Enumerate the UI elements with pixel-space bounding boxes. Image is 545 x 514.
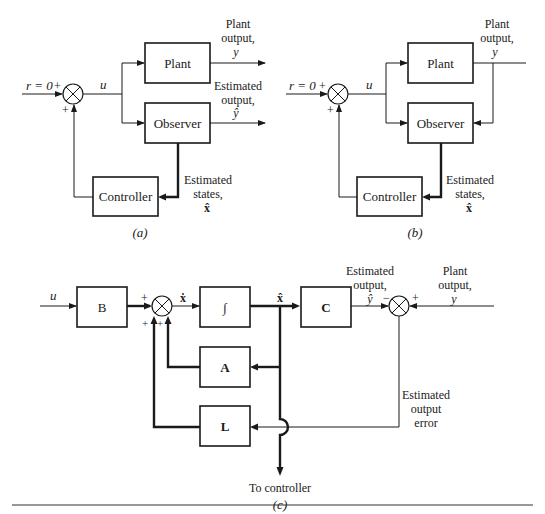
estimated-output-symbol: ŷ bbox=[232, 106, 239, 120]
a-label: A bbox=[220, 360, 230, 375]
a-feedback-line bbox=[168, 322, 200, 367]
sum-plus-bottom: + bbox=[327, 103, 334, 117]
estimated-states-label: Estimated bbox=[446, 173, 494, 187]
panel-a: r = 0 + + u Plant Observer Plant output,… bbox=[22, 17, 265, 240]
estimated-states-label-2: states, bbox=[193, 187, 223, 201]
summing-junction bbox=[63, 84, 83, 104]
estimated-states-symbol: x̂ bbox=[204, 201, 210, 215]
error-summing-junction bbox=[389, 296, 409, 316]
sum2-plus: + bbox=[412, 291, 419, 305]
summing-junction bbox=[328, 84, 348, 104]
sum1-plus-bottom-l: + bbox=[142, 317, 148, 329]
estimated-states-label: Estimated bbox=[184, 173, 232, 187]
b-label: B bbox=[98, 300, 107, 315]
plant-output-to-observer bbox=[474, 63, 493, 123]
c-label: C bbox=[321, 300, 330, 315]
estimated-states-symbol: x̂ bbox=[466, 201, 472, 215]
panel-c: u B + + + ẋ ∫ x̂ To controller A bbox=[40, 264, 494, 512]
caption-b: (b) bbox=[407, 225, 422, 240]
reference-input-label: r = 0 bbox=[289, 78, 316, 93]
observer-block-diagrams: r = 0 + + u Plant Observer Plant output,… bbox=[0, 0, 545, 514]
l-feedback-line bbox=[154, 322, 200, 427]
output-error-label-3: error bbox=[414, 416, 437, 430]
plant-output-label-2: output, bbox=[480, 31, 514, 45]
estimated-states-label-2: states, bbox=[455, 187, 485, 201]
controller-label: Controller bbox=[363, 189, 417, 204]
output-error-label-2: output bbox=[411, 402, 442, 416]
xhat-to-controller-line bbox=[280, 306, 288, 468]
feedback-line bbox=[339, 105, 357, 197]
feedback-line bbox=[74, 105, 93, 197]
estimated-output-label-2: output, bbox=[221, 93, 255, 107]
estimated-output-label-2: output, bbox=[353, 278, 387, 292]
to-controller-label: To controller bbox=[249, 481, 311, 495]
plant-output-symbol: y bbox=[232, 45, 239, 59]
output-error-line bbox=[256, 316, 399, 427]
state-summing-junction bbox=[152, 296, 172, 316]
estimated-output-label: Estimated bbox=[214, 79, 262, 93]
plant-output-label-2: output, bbox=[221, 31, 255, 45]
xhat-label: x̂ bbox=[277, 291, 283, 305]
plant-output-symbol: y bbox=[450, 292, 457, 306]
estimated-states-line bbox=[164, 143, 178, 197]
controller-label: Controller bbox=[99, 189, 153, 204]
plant-label: Plant bbox=[164, 56, 191, 71]
observer-label: Observer bbox=[417, 116, 465, 131]
l-label: L bbox=[221, 419, 230, 434]
sum-plus-bottom: + bbox=[62, 103, 69, 117]
plant-label: Plant bbox=[427, 56, 454, 71]
yhat-symbol: ŷ bbox=[366, 292, 373, 306]
estimated-states-line bbox=[428, 143, 441, 197]
plant-output-label: Plant bbox=[226, 17, 251, 31]
sum1-plus-bottom-r: + bbox=[157, 317, 163, 329]
estimated-output-label: Estimated bbox=[346, 264, 394, 278]
reference-input-label: r = 0 bbox=[26, 78, 53, 93]
plant-output-label: Plant bbox=[443, 264, 468, 278]
u-label: u bbox=[100, 77, 107, 92]
plant-output-symbol: y bbox=[491, 45, 498, 59]
panel-b: r = 0 + + u Plant Observer Plant output,… bbox=[286, 17, 526, 240]
output-error-label: Estimated bbox=[402, 388, 450, 402]
observer-label: Observer bbox=[154, 116, 202, 131]
plant-output-label: Plant bbox=[485, 17, 510, 31]
caption-a: (a) bbox=[132, 225, 147, 240]
xdot-label: ẋ bbox=[180, 291, 186, 305]
u-label: u bbox=[50, 288, 57, 303]
u-label: u bbox=[366, 77, 373, 92]
sum-plus-left: + bbox=[54, 79, 61, 93]
sum-plus-left: + bbox=[319, 79, 326, 93]
sum1-plus-left: + bbox=[141, 291, 148, 305]
plant-output-label-2: output, bbox=[438, 278, 472, 292]
